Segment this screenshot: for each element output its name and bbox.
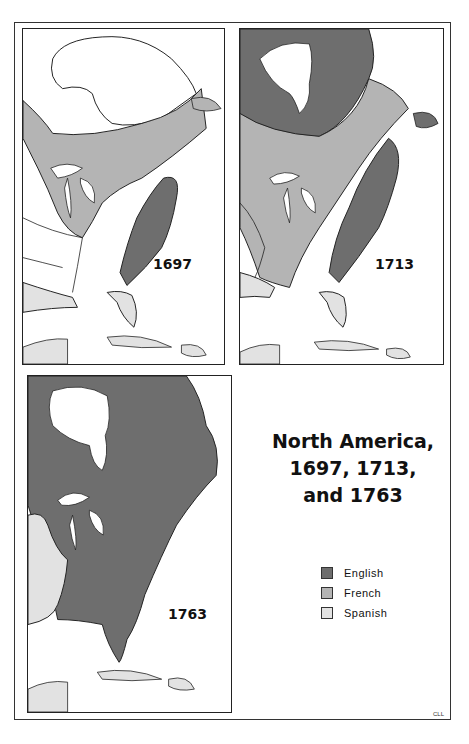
legend-item-english: English	[321, 563, 387, 583]
title-line-3: and 1763	[248, 482, 458, 509]
figure-title: North America, 1697, 1713, and 1763	[248, 428, 458, 509]
legend-item-french: French	[321, 583, 387, 603]
legend-item-spanish: Spanish	[321, 603, 387, 623]
map-1697-graphic	[23, 29, 224, 364]
map-1697: 1697	[22, 28, 225, 365]
legend-label: French	[344, 587, 381, 599]
map-1713-graphic	[240, 29, 443, 364]
title-line-2: 1697, 1713,	[248, 455, 458, 482]
credit-initials: CLL	[433, 711, 444, 717]
map-1763-graphic	[28, 376, 231, 712]
legend: English French Spanish	[321, 563, 387, 623]
legend-label: Spanish	[344, 607, 387, 619]
legend-swatch-english	[321, 567, 333, 579]
title-line-1: North America,	[248, 428, 458, 455]
map-year-label: 1713	[375, 256, 414, 272]
legend-swatch-spanish	[321, 607, 333, 619]
map-year-label: 1763	[168, 606, 207, 622]
legend-swatch-french	[321, 587, 333, 599]
map-year-label: 1697	[153, 256, 192, 272]
map-1763: 1763	[27, 375, 232, 713]
legend-label: English	[344, 567, 384, 579]
map-1713: 1713	[239, 28, 444, 365]
